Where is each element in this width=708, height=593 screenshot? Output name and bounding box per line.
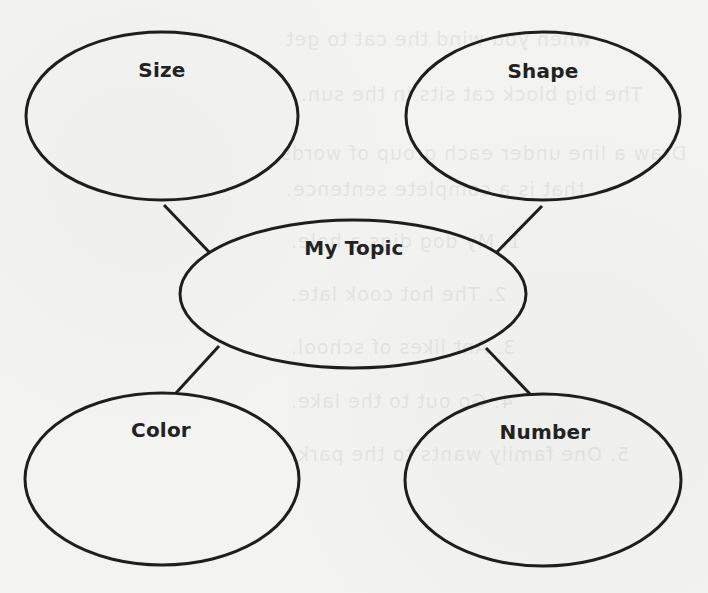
concept-web-diagram bbox=[0, 0, 708, 593]
connector-color bbox=[176, 346, 219, 393]
connector-shape bbox=[496, 206, 542, 253]
worksheet-page: when you wind the cat to get The big blo… bbox=[0, 0, 708, 593]
node-color-label: Color bbox=[131, 418, 191, 442]
node-size-label: Size bbox=[138, 58, 185, 82]
node-shape-label: Shape bbox=[507, 59, 578, 83]
connector-size bbox=[164, 205, 210, 253]
node-shape-ellipse bbox=[406, 32, 680, 200]
connector-number bbox=[486, 348, 530, 394]
node-number-label: Number bbox=[500, 420, 591, 444]
center-topic-label: My Topic bbox=[304, 236, 403, 260]
